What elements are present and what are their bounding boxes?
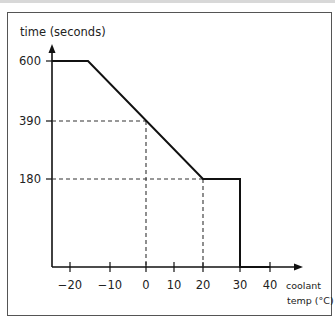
x-axis-title-line2: temp (°C) xyxy=(287,295,334,306)
x-tick-10: 10 xyxy=(167,278,182,292)
y-tick-390: 390 xyxy=(19,114,41,128)
y-tick-600: 600 xyxy=(19,54,41,68)
y-axis-title: time (seconds) xyxy=(20,25,106,39)
x-tick-40: 40 xyxy=(263,278,278,292)
x-axis-title-line1: coolant xyxy=(286,280,321,291)
y-axis xyxy=(46,44,56,267)
x-tick-0: 0 xyxy=(142,278,149,292)
x-tick-minus20: −20 xyxy=(58,278,82,292)
x-tick-minus10: −10 xyxy=(98,278,122,292)
x-tick-20: 20 xyxy=(196,278,211,292)
time-vs-temp-line xyxy=(52,61,270,267)
dashed-guides xyxy=(52,121,203,267)
x-axis-arrow-icon xyxy=(294,264,303,271)
chart-canvas: time (seconds) 600 390 180 −20 −10 0 10 … xyxy=(0,0,335,323)
x-tick-30: 30 xyxy=(233,278,248,292)
y-axis-arrow-icon xyxy=(49,44,56,53)
y-tick-180: 180 xyxy=(19,172,41,186)
